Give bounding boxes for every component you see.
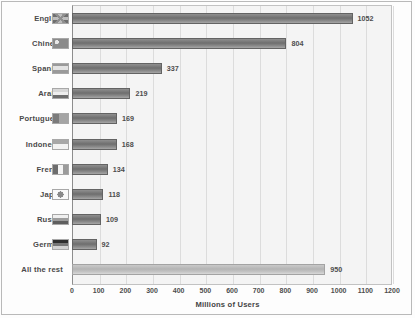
bar-row: 169	[72, 106, 392, 131]
x-tick-label: 900	[306, 287, 318, 294]
bar-value-label: 804	[291, 39, 303, 48]
bar-series: 105280433721916916813411810992950	[72, 6, 392, 286]
bar-value-label: 134	[113, 165, 125, 174]
flag-arabic-icon	[52, 88, 69, 99]
x-tick-label: 100	[93, 287, 105, 294]
bar-row: 92	[72, 232, 392, 257]
bar-row: 168	[72, 131, 392, 156]
bar	[72, 113, 117, 124]
x-tick-label: 600	[226, 287, 238, 294]
bar	[72, 38, 286, 49]
bar-value-label: 168	[122, 140, 134, 149]
x-tick-label: 700	[253, 287, 265, 294]
bar-value-label: 950	[330, 265, 342, 274]
bar-value-label: 1052	[358, 14, 374, 23]
flag-german-icon	[52, 239, 69, 250]
bar-value-label: 337	[167, 64, 179, 73]
chart-container: EnglishChineseSpanishArabicPortugueseInd…	[0, 0, 415, 318]
x-tick-label: 200	[119, 287, 131, 294]
bar-row: 950	[72, 257, 392, 282]
bar	[72, 139, 117, 150]
bar-row: 219	[72, 81, 392, 106]
flag-english-icon	[52, 13, 69, 24]
x-tick-label: 1100	[358, 287, 373, 294]
bar	[72, 88, 130, 99]
flag-chinese-icon	[52, 38, 69, 49]
bar	[72, 13, 353, 24]
flag-spanish-icon	[52, 63, 69, 74]
x-tick-label: 300	[146, 287, 158, 294]
bar-value-label: 92	[102, 240, 110, 249]
x-axis-title: Millions of Users	[0, 300, 415, 309]
bar-row: 118	[72, 182, 392, 207]
flag-french-icon	[52, 164, 69, 175]
bar	[72, 239, 97, 250]
x-tick-label: 1200	[384, 287, 400, 294]
flag-portuguese-icon	[52, 113, 69, 124]
x-tick-label: 400	[173, 287, 185, 294]
flag-indonesia-icon	[52, 139, 69, 150]
x-axis-ticks: 0100200300400500600700800900100011001200	[72, 287, 393, 301]
bar	[72, 264, 325, 275]
x-tick-label: 800	[279, 287, 291, 294]
x-tick-label: 0	[70, 287, 74, 294]
bar-row: 134	[72, 157, 392, 182]
bar-value-label: 109	[106, 215, 118, 224]
bar	[72, 63, 162, 74]
bar	[72, 214, 101, 225]
x-tick-label: 1000	[331, 287, 347, 294]
bar	[72, 189, 103, 200]
bar-row: 337	[72, 56, 392, 81]
bar-value-label: 219	[135, 89, 147, 98]
flag-japan-icon	[52, 189, 69, 200]
bar-row: 804	[72, 31, 392, 56]
bar-row: 1052	[72, 6, 392, 31]
bar-value-label: 169	[122, 114, 134, 123]
bar	[72, 164, 108, 175]
x-tick-label: 500	[199, 287, 211, 294]
category-label: All the rest	[21, 265, 63, 274]
bar-row: 109	[72, 207, 392, 232]
flag-russia-icon	[52, 214, 69, 225]
bar-value-label: 118	[108, 190, 120, 199]
